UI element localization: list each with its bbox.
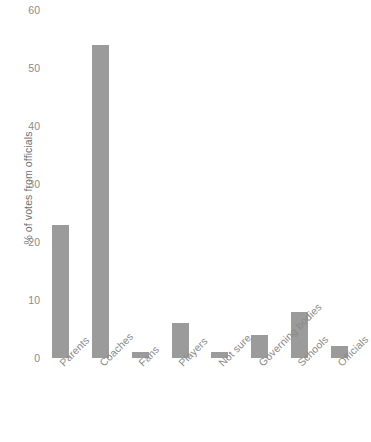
bar (92, 45, 109, 358)
y-tick-label: 0 (16, 353, 40, 364)
x-axis-tick-labels: Parents Coaches Fans Players Not sure Go… (41, 360, 359, 442)
y-tick-label: 10 (16, 295, 40, 306)
y-tick-label: 40 (16, 121, 40, 132)
bar (52, 225, 69, 358)
y-tick-label: 50 (16, 63, 40, 74)
y-tick-label: 30 (16, 179, 40, 190)
y-axis-tick-labels: 60 50 40 30 20 10 0 (16, 0, 40, 368)
y-tick-label: 20 (16, 237, 40, 248)
y-tick-label: 60 (16, 5, 40, 16)
